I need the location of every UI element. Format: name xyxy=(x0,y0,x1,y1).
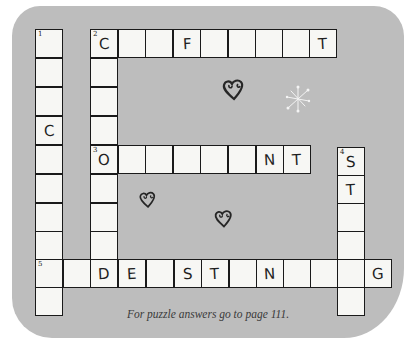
starburst-icon xyxy=(283,84,313,114)
crossword-cell[interactable] xyxy=(200,145,228,174)
crossword-cell[interactable]: 4S xyxy=(337,147,365,176)
crossword-cell[interactable] xyxy=(337,203,365,232)
cell-letter: C xyxy=(43,121,54,140)
crossword-cell[interactable] xyxy=(145,145,173,174)
crossword-cell[interactable] xyxy=(145,29,173,58)
heart-icon xyxy=(221,78,247,102)
crossword-cell[interactable]: 3O xyxy=(90,145,118,174)
crossword-cell[interactable] xyxy=(90,203,118,232)
crossword-cell[interactable] xyxy=(229,259,257,288)
crossword-cell[interactable]: T xyxy=(309,29,337,58)
crossword-cell[interactable] xyxy=(35,231,63,260)
crossword-cell[interactable]: 2C xyxy=(90,29,118,58)
clue-number: 1 xyxy=(38,30,42,38)
crossword-cell[interactable]: 5 xyxy=(35,259,63,288)
crossword-cell[interactable]: T xyxy=(283,145,311,174)
cell-letter: T xyxy=(210,264,220,282)
cell-letter: T xyxy=(318,34,328,52)
clue-number: 5 xyxy=(38,260,42,268)
heart-icon xyxy=(213,209,235,229)
clue-number: 4 xyxy=(340,148,344,156)
crossword-cell[interactable]: G xyxy=(364,259,392,288)
crossword-cell[interactable] xyxy=(90,174,118,203)
crossword-cell[interactable]: D xyxy=(90,259,118,288)
crossword-cell[interactable] xyxy=(200,29,228,58)
crossword-cell[interactable]: S xyxy=(174,259,202,288)
cell-letter: T xyxy=(346,180,356,198)
crossword-cell[interactable] xyxy=(35,203,63,232)
crossword-cell[interactable] xyxy=(282,29,310,58)
crossword-cell[interactable] xyxy=(118,145,146,174)
crossword-cell[interactable]: F xyxy=(173,29,201,58)
crossword-cell[interactable] xyxy=(90,58,118,87)
cell-letter: S xyxy=(183,264,193,282)
cell-letter: D xyxy=(98,264,110,283)
crossword-cell[interactable]: 1 xyxy=(35,29,63,58)
cell-letter: F xyxy=(182,34,192,52)
crossword-cell[interactable] xyxy=(35,87,63,116)
crossword-cell[interactable] xyxy=(228,29,256,58)
crossword-cell[interactable] xyxy=(35,58,63,87)
heart-icon xyxy=(138,190,158,210)
crossword-cell[interactable] xyxy=(228,145,256,174)
crossword-cell[interactable] xyxy=(118,29,146,58)
crossword-cell[interactable] xyxy=(255,29,283,58)
crossword-cell[interactable] xyxy=(173,145,201,174)
crossword-cell[interactable] xyxy=(90,87,118,116)
crossword-cell[interactable]: N xyxy=(256,259,284,288)
cell-letter: T xyxy=(292,150,302,168)
crossword-cell[interactable] xyxy=(337,231,365,260)
cell-letter: N xyxy=(264,264,276,283)
crossword-cell[interactable]: E xyxy=(118,259,146,288)
cell-letter: N xyxy=(264,150,276,169)
crossword-cell[interactable] xyxy=(63,259,91,288)
crossword-cell[interactable] xyxy=(90,231,118,260)
crossword-cell[interactable]: T xyxy=(201,259,229,288)
clue-number: 2 xyxy=(93,30,97,38)
cell-letter: C xyxy=(98,34,109,53)
crossword-cell[interactable] xyxy=(35,174,63,203)
crossword-cell[interactable] xyxy=(90,116,118,145)
crossword-cell[interactable]: T xyxy=(337,175,365,204)
cell-letter: E xyxy=(127,264,137,282)
crossword-grid: 1C52C3ODFTNT4STESTNG xyxy=(0,0,416,346)
cell-letter: S xyxy=(346,152,356,170)
crossword-cell[interactable] xyxy=(283,259,311,288)
crossword-cell[interactable]: N xyxy=(256,145,284,174)
crossword-cell[interactable] xyxy=(337,259,365,288)
crossword-cell[interactable]: C xyxy=(35,116,63,145)
answers-caption: For puzzle answers go to page 111. xyxy=(0,308,416,320)
cell-letter: O xyxy=(98,150,111,169)
crossword-cell[interactable] xyxy=(146,259,174,288)
cell-letter: G xyxy=(372,264,385,283)
crossword-cell[interactable] xyxy=(35,145,63,174)
crossword-cell[interactable] xyxy=(310,259,338,288)
